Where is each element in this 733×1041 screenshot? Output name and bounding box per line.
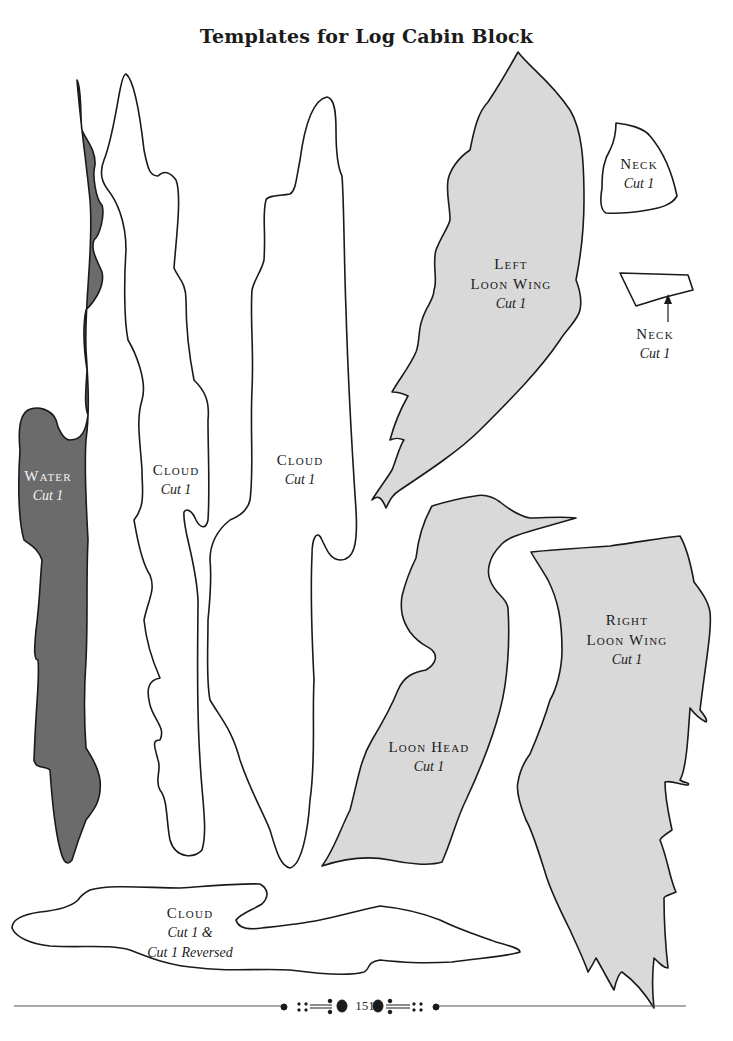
cloud-template-shape-3	[12, 884, 520, 974]
neck-template-shape-2	[620, 273, 693, 306]
cloud-label-3: Cloud Cut 1 & Cut 1 Reversed	[130, 903, 250, 963]
right-loon-wing-label: Right Loon Wing Cut 1	[572, 610, 682, 670]
neck-label-2: Neck Cut 1	[622, 324, 688, 364]
left-loon-wing-label: Left Loon Wing Cut 1	[456, 254, 566, 314]
right-loon-wing-template-shape	[517, 536, 710, 1008]
water-label: Water Cut 1	[14, 466, 82, 506]
cloud-label-2: Cloud Cut 1	[264, 450, 336, 490]
neck-label-1: Neck Cut 1	[606, 154, 672, 194]
cloud-label-1: Cloud Cut 1	[140, 460, 212, 500]
page-number: 151	[348, 998, 382, 1014]
loon-head-label: Loon Head Cut 1	[374, 737, 484, 777]
